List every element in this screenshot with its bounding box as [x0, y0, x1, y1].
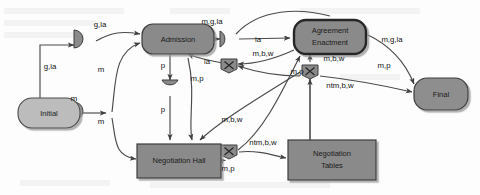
- edge-initial-to-top-merge: [40, 45, 74, 98]
- edge-label-ntm-b-w-tbl: ntm,b,w: [249, 138, 277, 147]
- edge-mp-to-hall: [188, 58, 192, 140]
- edge-right-to-hall: [200, 72, 300, 140]
- junction-merge-p[interactable]: [162, 80, 178, 85]
- edge-label-m-b-w-mid: m,b,w: [253, 49, 274, 58]
- edge-label-m-up: m: [98, 65, 105, 74]
- state-machine-diagram: Initial Admission Agreement Enactment Ne…: [0, 0, 480, 195]
- node-agreement-label-line1: Agreement: [312, 26, 350, 35]
- node-negotiation-hall[interactable]: Negotiation Hall: [137, 144, 221, 178]
- diagram-canvas: Initial Admission Agreement Enactment Ne…: [0, 0, 480, 195]
- node-admission-label: Admission: [161, 35, 196, 44]
- node-final-label: Final: [433, 90, 450, 99]
- node-negotiation-hall-label: Negotiation Hall: [153, 156, 206, 165]
- edge-label-m-g-la-adm: m,g,la: [201, 17, 223, 26]
- edge-split-to-agreement: [239, 38, 290, 39]
- edge-label-g-la-left: g,la: [44, 62, 57, 71]
- node-negotiation-tables-label-line2: Tables: [321, 161, 343, 170]
- edge-xbottom-to-tables: [239, 152, 286, 158]
- node-final[interactable]: Final: [414, 78, 468, 110]
- junction-x-right[interactable]: [302, 65, 318, 79]
- edge-label-m-b-w-agr: m,b,w: [324, 54, 345, 63]
- edge-merge-to-admission-a: [96, 32, 140, 41]
- junction-x-bottom[interactable]: [221, 145, 237, 159]
- junction-x-mid[interactable]: [221, 59, 237, 73]
- edge-label-m-p-adm: m,p: [191, 74, 205, 83]
- edge-merge-to-admission-b: [112, 43, 140, 112]
- node-initial-label: Initial: [40, 109, 58, 118]
- edge-label-m-b-w-low: m,b,w: [222, 115, 243, 124]
- node-agreement-label-line2: Enactment: [312, 38, 349, 47]
- edge-label-g-la-top: g,la: [94, 20, 107, 29]
- node-negotiation-tables[interactable]: Negotiation Tables: [288, 140, 376, 180]
- edge-label-m-down: m: [98, 117, 105, 126]
- edge-label-p-bottom: p: [161, 105, 166, 114]
- edge-label-m-p-final: m,p: [378, 61, 392, 70]
- edge-label-m-g-la-final: m,g,la: [381, 35, 403, 44]
- edge-label-la-back: la: [204, 57, 211, 66]
- edge-label-ntm-b-w-up: ntm,b,w: [326, 81, 354, 90]
- edge-merge-to-hall: [112, 118, 136, 159]
- junction-split-admission[interactable]: [220, 31, 225, 47]
- edge-label-m-p-hall: m,p: [222, 164, 236, 173]
- node-negotiation-tables-label-line1: Negotiation: [313, 149, 351, 158]
- node-agreement-enactment[interactable]: Agreement Enactment: [294, 20, 366, 54]
- edge-label-m-initial: m: [71, 94, 78, 103]
- edge-label-p-top: p: [161, 61, 166, 70]
- node-admission[interactable]: Admission: [142, 24, 214, 54]
- edge-label-m-p-right: m,p: [291, 67, 305, 76]
- edge-label-la-split: la: [255, 35, 262, 44]
